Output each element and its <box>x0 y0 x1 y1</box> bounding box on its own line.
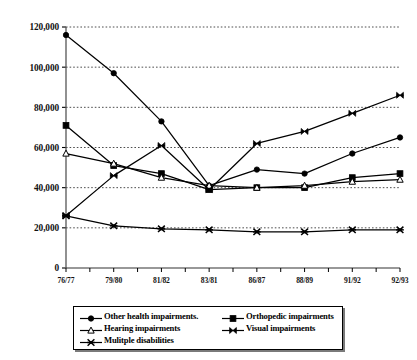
series-mulitple-disabilities <box>62 213 404 235</box>
x-axis-tick-label: 81/82 <box>153 276 170 285</box>
data-point-marker <box>229 328 236 334</box>
data-point-marker <box>230 316 236 322</box>
filled-circle-icon <box>80 310 102 321</box>
legend-item-hearing-impairments: Hearing impairments <box>80 322 180 333</box>
legend-item-visual-impairments: Visual impairments <box>222 322 315 333</box>
star-x-icon <box>80 334 102 345</box>
legend-label: Hearing impairments <box>104 323 180 333</box>
plot-area: 020,00040,00060,00080,000100,000120,0007… <box>0 0 417 300</box>
data-point-marker <box>253 229 261 235</box>
legend-label: Orthopedic impairments <box>246 311 334 321</box>
data-point-marker <box>158 142 165 148</box>
data-point-marker <box>110 173 117 179</box>
data-point-marker <box>301 229 309 235</box>
data-point-marker <box>88 316 93 321</box>
data-point-marker <box>350 151 355 156</box>
x-axis-tick-label: 88/89 <box>296 276 313 285</box>
legend-item-multiple-disabilities: Mulitple disabilities <box>80 334 174 345</box>
data-point-marker <box>348 227 356 233</box>
data-point-marker <box>254 167 259 172</box>
data-point-marker <box>63 123 69 129</box>
x-axis-tick-label: 86/87 <box>248 276 265 285</box>
x-axis-tick-label: 92/93 <box>392 276 409 285</box>
chart-legend: Other health impairments. Orthopedic imp… <box>73 306 343 350</box>
line-chart-svg: 020,00040,00060,00080,000100,000120,0007… <box>0 0 417 300</box>
open-triangle-icon <box>80 322 102 333</box>
y-axis-tick-label: 40,000 <box>34 183 59 193</box>
legend-label: Visual impairments <box>246 323 315 333</box>
data-point-marker <box>253 140 260 146</box>
data-point-marker <box>87 339 95 345</box>
chart-figure: 020,00040,00060,00080,000100,000120,0007… <box>0 0 417 360</box>
bowtie-x-icon <box>222 322 244 333</box>
legend-item-orthopedic-impairments: Orthopedic impairments <box>222 310 334 321</box>
legend-label: Other health impairments. <box>104 311 198 321</box>
data-point-marker <box>205 227 213 233</box>
y-axis-tick-label: 120,000 <box>29 22 59 32</box>
x-axis-tick-label: 83/81 <box>201 276 218 285</box>
data-point-marker <box>63 32 68 37</box>
x-axis-tick-label: 76/77 <box>58 276 75 285</box>
data-point-marker <box>397 135 402 140</box>
x-axis-tick-label: 79/80 <box>105 276 122 285</box>
data-point-marker <box>63 150 69 156</box>
data-point-marker <box>159 119 164 124</box>
data-point-marker <box>301 128 308 134</box>
x-axis-tick-label: 91/92 <box>344 276 361 285</box>
y-axis-tick-label: 100,000 <box>29 63 59 73</box>
filled-square-icon <box>222 310 244 321</box>
data-point-marker <box>349 110 356 116</box>
data-point-marker <box>302 171 307 176</box>
y-axis-tick-label: 60,000 <box>34 143 59 153</box>
y-axis-tick-label: 80,000 <box>34 103 59 113</box>
y-axis-tick-label: 20,000 <box>34 223 59 233</box>
data-point-marker <box>396 227 404 233</box>
data-point-marker <box>158 226 166 232</box>
data-point-marker <box>111 70 116 75</box>
y-axis-tick-label: 0 <box>54 263 59 273</box>
legend-item-other-health-impairments: Other health impairments. <box>80 310 198 321</box>
data-point-marker <box>396 92 403 98</box>
legend-label: Mulitple disabilities <box>104 335 174 345</box>
